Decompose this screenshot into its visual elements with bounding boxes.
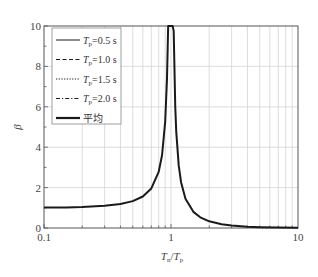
y-tick-label: 8 <box>36 60 42 72</box>
y-tick-label: 2 <box>36 182 42 194</box>
x-tick-label: 0.1 <box>37 231 51 243</box>
legend: Tp=0.5 sTp=1.0 sTp=1.5 sTp=2.0 s平均 <box>52 28 121 124</box>
y-tick-label: 10 <box>30 20 42 32</box>
legend-label: 平均 <box>83 113 103 124</box>
y-tick-label: 6 <box>36 101 42 113</box>
y-tick-label: 4 <box>36 141 42 153</box>
x-axis-title: Tn/Tp <box>161 250 184 264</box>
chart: 02468100.1110 Tp=0.5 sTp=1.0 sTp=1.5 sTp… <box>0 0 318 277</box>
x-tick-label: 1 <box>168 231 174 243</box>
y-axis-title: β <box>11 124 23 131</box>
x-tick-label: 10 <box>293 231 305 243</box>
